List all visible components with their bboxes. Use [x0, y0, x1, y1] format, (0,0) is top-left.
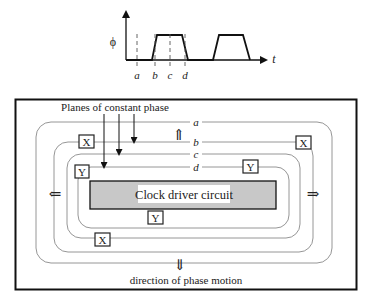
register-y-left: Y	[75, 165, 89, 178]
svg-text:Y: Y	[152, 212, 160, 224]
marker-label-d: d	[182, 69, 188, 81]
y-axis-label: ϕ	[110, 35, 116, 49]
marker-label-c: c	[168, 69, 173, 81]
planes-of-constant-phase: Planes of constant phase	[61, 101, 169, 167]
arrow-up-icon: ⇑	[173, 127, 186, 143]
register-y-right: Y	[243, 160, 258, 173]
arrow-down-icon: ⇓	[174, 257, 187, 273]
planes-label: Planes of constant phase	[61, 101, 169, 113]
register-x-bottom: X	[95, 233, 110, 246]
x-axis-label: t	[272, 52, 276, 66]
contour-label-b: b	[193, 136, 199, 148]
svg-text:X: X	[300, 137, 308, 149]
svg-text:X: X	[83, 136, 91, 148]
clock-distribution-diagram: ϕ t a b c d a b c d Clock driver circuit	[0, 0, 373, 293]
contour-labels: a b c d	[190, 116, 202, 173]
clock-waveform: ϕ t a b c d	[110, 12, 276, 81]
pulse-train	[126, 35, 250, 60]
clock-driver-label: Clock driver circuit	[135, 188, 233, 202]
marker-label-b: b	[152, 69, 158, 81]
register-x-top-left: X	[79, 135, 94, 148]
contour-label-d: d	[193, 161, 199, 173]
register-y-bottom: Y	[148, 211, 163, 224]
svg-text:X: X	[99, 234, 107, 246]
svg-text:Y: Y	[78, 166, 86, 178]
marker-label-a: a	[134, 69, 140, 81]
clock-driver-circuit: Clock driver circuit	[90, 181, 276, 209]
direction-label: direction of phase motion	[130, 274, 243, 286]
contour-label-a: a	[193, 116, 199, 128]
contour-label-c: c	[194, 148, 199, 160]
register-x-top-right: X	[296, 136, 311, 149]
arrow-right-icon: ⇒	[307, 186, 320, 202]
arrow-left-icon: ⇐	[49, 186, 62, 202]
svg-text:Y: Y	[247, 161, 255, 173]
